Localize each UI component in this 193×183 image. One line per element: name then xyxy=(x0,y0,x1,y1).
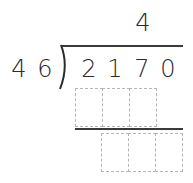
division-bracket xyxy=(56,44,70,90)
remainder-answer-box-1[interactable] xyxy=(101,133,129,172)
product-answer-box-1[interactable] xyxy=(75,88,103,127)
dividend-digit-4: 0 xyxy=(158,57,178,81)
dividend-digit-3: 7 xyxy=(132,57,152,81)
subtraction-line xyxy=(75,128,183,130)
dividend-digit-2: 1 xyxy=(105,57,125,81)
remainder-answer-box-2[interactable] xyxy=(128,133,156,172)
product-answer-box-3[interactable] xyxy=(129,88,157,127)
dividend-digit-1: 2 xyxy=(79,57,99,81)
remainder-answer-box-3[interactable] xyxy=(155,133,183,172)
quotient-digit-1: 4 xyxy=(133,11,153,35)
product-answer-box-2[interactable] xyxy=(102,88,130,127)
divisor-digit-1: 4 xyxy=(9,57,29,81)
divisor-digit-2: 6 xyxy=(35,57,55,81)
division-bar xyxy=(62,45,183,47)
